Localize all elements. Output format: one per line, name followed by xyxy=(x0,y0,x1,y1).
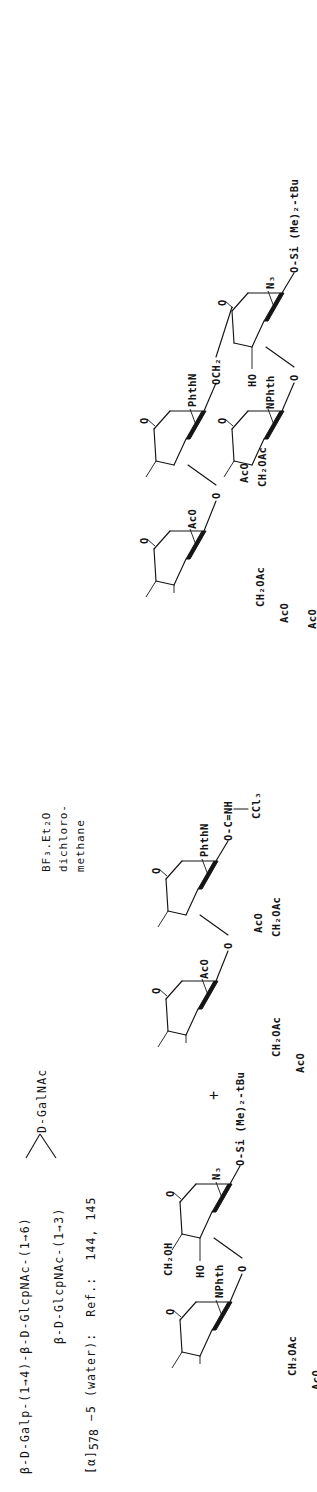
acceptor-label-azide: N₃ xyxy=(210,1167,222,1180)
reference-numbers: 144, 145 xyxy=(84,1196,98,1260)
product-lower-label-ring-o-left: O xyxy=(216,417,228,424)
acceptor-label-ch2oac: CH₂OAc xyxy=(286,1336,298,1376)
reagent-line-1: BF₃.Et₂O xyxy=(40,812,53,872)
rotation-value: −5 xyxy=(84,1405,98,1421)
structure-donor: AcO AcO CH₂OAc O AcO O AcO CH₂OAc O Phth… xyxy=(128,787,278,1047)
product-upper-label-aco-a: AcO xyxy=(278,603,290,623)
donor-label-imidate-o: O-C=NH xyxy=(222,801,234,841)
product-upper-label-ch2oac-left: CH₂OAc xyxy=(254,567,266,607)
reference-label: Ref.: xyxy=(84,1277,98,1317)
acceptor-label-silyl: O-Si (Me)₂-tBu xyxy=(234,1072,246,1166)
rotation-bracket-open: [ xyxy=(84,1466,98,1474)
rotation-subscript: 578 xyxy=(87,1429,101,1450)
structure-acceptor: AcO AcO CH₂OAc O NPhth O HO CH₂OH O N₃ O… xyxy=(150,1147,270,1362)
rotation-alpha-symbol: α xyxy=(84,1458,98,1466)
product-lower-label-ring-o-glyc: O xyxy=(288,374,300,381)
nomenclature-line-1: β-D-Galp-(1→4)-β-D-GlcpNAc-(1→6) xyxy=(18,1217,32,1474)
donor-label-aco-a: AcO xyxy=(294,1053,306,1073)
product-upper-label-aco-c: AcO xyxy=(186,509,198,529)
optical-rotation-line: [α]578 −5 (water): Ref.: 144, 145 xyxy=(80,1196,101,1474)
acceptor-label-ch2oh: CH₂OH xyxy=(162,1242,174,1276)
donor-label-imidate-ccl3: CCl₃ xyxy=(250,792,262,819)
donor-label-aco-c: AcO xyxy=(198,959,210,979)
nomenclature-line-2: β-D-GlcpNAc-(1→3) xyxy=(52,1208,66,1344)
donor-label-ring-o-mid: O xyxy=(222,942,234,949)
product-lower-label-nphth: NPhth xyxy=(264,375,276,409)
donor-label-phthn: PhthN xyxy=(198,823,210,857)
acceptor-label-ring-o-left: O xyxy=(164,1308,176,1315)
acceptor-label-aco-top: AcO xyxy=(310,1370,317,1390)
structure-product-lower: AcO AcO CH₂OAc O NPhth O HO O N₃ O-Si (M… xyxy=(212,237,317,477)
product-lower-label-ring-o-right: O xyxy=(216,299,228,306)
donor-label-ring-o-right: O xyxy=(150,867,162,874)
rotation-solvent: (water) xyxy=(84,1341,98,1397)
nomenclature-branch-label: D-GalNAc xyxy=(35,1069,49,1133)
acceptor-label-glycosidic-o: O xyxy=(236,1265,248,1272)
branch-connector xyxy=(24,1130,68,1174)
product-upper-label-aco-b: AcO xyxy=(306,609,317,629)
plus-sign: + xyxy=(205,1090,223,1100)
scheme-page: β-D-Galp-(1→4)-β-D-GlcpNAc-(1→6) β-D-Glc… xyxy=(0,0,317,1492)
reagent-line-3: methane xyxy=(74,819,87,872)
donor-label-ch2oac-left: CH₂OAc xyxy=(270,1017,282,1057)
product-lower-label-azide: N₃ xyxy=(264,276,276,289)
acceptor-label-nphth: NPhth xyxy=(213,1264,225,1298)
product-upper-label-phthn: PhthN xyxy=(186,373,198,407)
product-upper-label-ring-o-mid: O xyxy=(210,492,222,499)
reagent-line-2: dichloro- xyxy=(57,804,70,872)
product-upper-label-ring-o-left: O xyxy=(138,537,150,544)
product-lower-label-silyl: O-Si (Me)₂-tBu xyxy=(288,179,300,273)
product-lower-skeleton xyxy=(212,237,317,477)
donor-label-ch2oac-right: CH₂OAc xyxy=(270,897,282,937)
donor-label-ring-o-left: O xyxy=(150,987,162,994)
acceptor-label-ring-o-right: O xyxy=(164,1190,176,1197)
donor-label-aco-d: AcO xyxy=(252,913,264,933)
acceptor-label-ho: HO xyxy=(194,1265,206,1278)
rotation-bracket-close: ] xyxy=(84,1450,98,1458)
product-upper-label-ring-o-right: O xyxy=(138,417,150,424)
product-lower-label-ho: HO xyxy=(246,374,258,387)
